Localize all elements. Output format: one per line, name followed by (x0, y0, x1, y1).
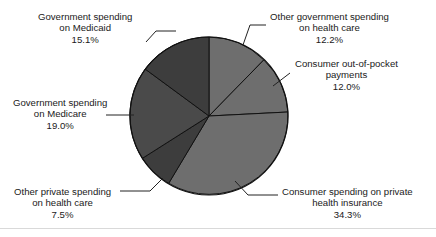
slice-label-private-insurance-line1: Consumer spending on private (282, 186, 413, 197)
slice-label-other-private: Other private spending on health care 7.… (14, 186, 111, 220)
bottom-divider (0, 228, 436, 229)
pie-chart-figure: Government spending on Medicaid 15.1% Go… (0, 0, 436, 237)
slice-label-private-insurance-percent: 34.3% (282, 209, 413, 220)
slice-label-medicaid-line2: on Medicaid (38, 22, 132, 33)
slice-label-other-private-line1: Other private spending (14, 186, 111, 197)
slice-label-out-of-pocket-line2: payments (295, 69, 398, 80)
slice-label-medicaid-line1: Government spending (38, 11, 132, 22)
slice-label-other-government-line2: on health care (270, 22, 389, 33)
slice-label-out-of-pocket-line1: Consumer out-of-pocket (295, 58, 398, 69)
slice-label-medicare-percent: 19.0% (13, 120, 107, 131)
slice-label-medicare: Government spending on Medicare 19.0% (13, 97, 107, 131)
pie-slices (130, 37, 288, 195)
slice-label-other-private-line2: on health care (14, 197, 111, 208)
leader-line-medicaid (146, 31, 176, 42)
slice-label-medicaid-percent: 15.1% (38, 34, 132, 45)
leader-line-other-government (243, 25, 266, 45)
slice-label-other-government: Other government spending on health care… (270, 11, 389, 45)
slice-label-private-insurance-line2: health insurance (282, 197, 413, 208)
slice-label-other-private-percent: 7.5% (14, 209, 111, 220)
slice-label-private-insurance: Consumer spending on private health insu… (282, 186, 413, 220)
slice-label-out-of-pocket-percent: 12.0% (295, 81, 398, 92)
leader-line-other-private (120, 178, 163, 191)
slice-label-other-government-percent: 12.2% (270, 34, 389, 45)
slice-label-out-of-pocket: Consumer out-of-pocket payments 12.0% (295, 58, 398, 92)
slice-label-medicare-line2: on Medicare (13, 108, 107, 119)
slice-label-medicare-line1: Government spending (13, 97, 107, 108)
slice-label-medicaid: Government spending on Medicaid 15.1% (38, 11, 132, 45)
slice-label-other-government-line1: Other government spending (270, 11, 389, 22)
